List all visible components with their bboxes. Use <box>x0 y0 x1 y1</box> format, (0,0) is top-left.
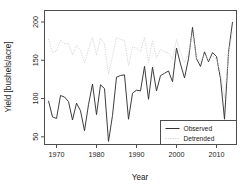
y-tick-label: 150 <box>31 54 40 66</box>
legend-label-observed[interactable]: Observed <box>184 125 213 132</box>
y-axis: 50100150200 <box>31 16 45 141</box>
x-tick-label: 1970 <box>49 150 65 159</box>
y-tick-label: 100 <box>31 93 40 105</box>
y-tick-label: 200 <box>31 16 40 28</box>
x-tick-label: 1990 <box>129 150 145 159</box>
chart-legend[interactable]: ObservedDetrended <box>161 121 237 145</box>
x-tick-label: 2000 <box>169 150 185 159</box>
x-tick-label: 1980 <box>89 150 105 159</box>
x-axis: 19701980199020002010 <box>49 145 225 159</box>
legend-label-detrended[interactable]: Detrended <box>184 135 215 142</box>
x-tick-label: 2010 <box>209 150 225 159</box>
yield-time-series-chart: 50100150200 19701980199020002010 Yield [… <box>0 0 247 187</box>
x-axis-label: Year <box>132 173 149 182</box>
y-tick-label: 50 <box>31 133 40 141</box>
chart-container: 50100150200 19701980199020002010 Yield [… <box>0 0 247 187</box>
y-axis-label: Yield [bushels/acre] <box>4 41 13 112</box>
